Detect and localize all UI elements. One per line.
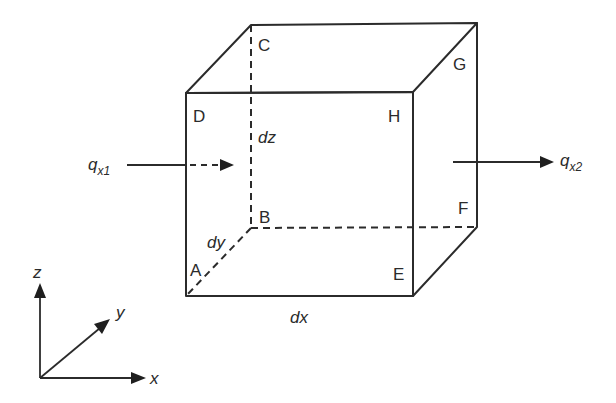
flux-in-label: qx1 <box>88 155 110 178</box>
vertex-label-F: F <box>458 199 468 218</box>
axis-label-x: x <box>149 369 159 388</box>
flux-in-arrowhead <box>220 159 234 171</box>
flux-out-label: qx2 <box>560 151 582 174</box>
vertex-label-D: D <box>193 107 205 126</box>
dimension-label-dz: dz <box>258 128 276 147</box>
flux-out-subscript: x2 <box>568 160 582 174</box>
flux-out-arrowhead <box>540 156 554 168</box>
dimension-label-dx: dx <box>290 308 308 327</box>
axis-label-y: y <box>115 303 126 322</box>
vertex-label-H: H <box>388 107 400 126</box>
x-axis-arrowhead <box>131 372 146 384</box>
cube-diagram: C G D H B F A E dz dy dx qx1 qx2 z y x <box>0 0 616 403</box>
top-face-DCGH <box>186 23 477 93</box>
vertex-label-E: E <box>393 265 404 284</box>
vertex-label-G: G <box>453 55 466 74</box>
right-face-GFE <box>413 23 477 296</box>
hidden-edge-BF <box>251 227 477 228</box>
y-axis-line <box>40 328 100 378</box>
vertex-label-C: C <box>258 36 270 55</box>
vertex-label-B: B <box>259 208 270 227</box>
front-face-DHEA <box>186 92 413 296</box>
dimension-label-dy: dy <box>207 233 226 252</box>
flux-in-subscript: x1 <box>96 164 110 178</box>
vertex-label-A: A <box>190 261 202 280</box>
axis-label-z: z <box>32 263 42 282</box>
z-axis-arrowhead <box>34 283 46 298</box>
